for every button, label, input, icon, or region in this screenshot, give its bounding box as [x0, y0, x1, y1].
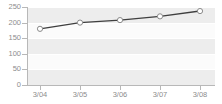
data-point	[37, 26, 42, 31]
series-markers	[37, 8, 202, 31]
data-series	[0, 0, 222, 104]
data-point	[77, 20, 82, 25]
line-chart: 250 200 150 100 50 0 3/04 3/05 3/06 3/07…	[0, 0, 222, 104]
data-point	[197, 8, 202, 13]
data-point	[157, 14, 162, 19]
data-point	[117, 18, 122, 23]
